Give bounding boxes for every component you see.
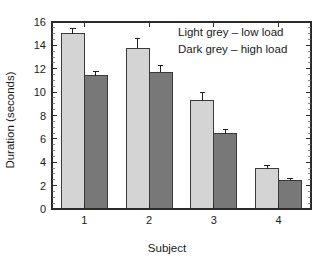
- y-tick-label: 2: [40, 180, 46, 192]
- y-tick-label: 8: [40, 110, 46, 122]
- x-axis-title: Subject: [148, 242, 187, 254]
- chart-svg: Duration (seconds) Subject Light grey – …: [0, 0, 330, 265]
- x-tick-label: 4: [276, 214, 282, 226]
- y-axis-title: Duration (seconds): [4, 71, 16, 168]
- bar-high-load: [149, 72, 172, 209]
- y-tick-label: 4: [40, 156, 46, 168]
- bar-low-load: [61, 34, 84, 209]
- x-tick-label: 2: [146, 214, 152, 226]
- x-tick-label: 1: [81, 214, 87, 226]
- x-tick-label: 3: [211, 214, 217, 226]
- bar-low-load: [256, 169, 279, 209]
- y-tick-label: 14: [34, 39, 46, 51]
- y-tick-label: 6: [40, 133, 46, 145]
- bar-high-load: [279, 180, 302, 209]
- y-tick-label: 10: [34, 86, 46, 98]
- y-tick-label: 16: [34, 16, 46, 28]
- bar-low-load: [191, 101, 214, 209]
- bar-high-load: [84, 76, 107, 209]
- legend-line-low-load: Light grey – low load: [178, 26, 283, 38]
- bar-chart-figure: Duration (seconds) Subject Light grey – …: [0, 0, 330, 265]
- y-tick-label: 12: [34, 63, 46, 75]
- bar-low-load: [126, 48, 149, 209]
- legend-line-high-load: Dark grey – high load: [178, 43, 287, 55]
- bar-high-load: [214, 134, 237, 209]
- y-tick-label: 0: [40, 203, 46, 215]
